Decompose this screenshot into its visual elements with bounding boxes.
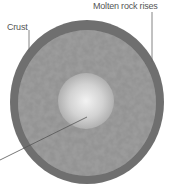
molten-rock-label: Molten rock rises bbox=[93, 1, 158, 11]
crust-label: Crust bbox=[7, 22, 28, 32]
core bbox=[58, 73, 114, 129]
